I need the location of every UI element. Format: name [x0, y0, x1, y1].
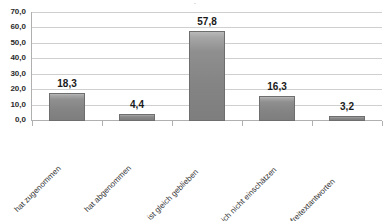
x-label-hat-zugenommen: hat zugenommen [13, 164, 63, 214]
x-label-freitextantworten: freitextantworten [289, 177, 337, 221]
x-label-hat-abgenommen: hat abgenommen [83, 164, 133, 214]
x-axis-labels: hat zugenommen hat abgenommen ist gleich… [0, 0, 390, 221]
bar-chart: · 70,0 60,0 50,0 40,0 30,0 20,0 10,0 0,0… [0, 0, 390, 221]
x-label-ist-gleich-geblieben: ist gleich geblieben [146, 168, 200, 221]
x-label-kann-ich-nicht-einschaetzen: kann ich nicht einschätzen [206, 165, 279, 221]
